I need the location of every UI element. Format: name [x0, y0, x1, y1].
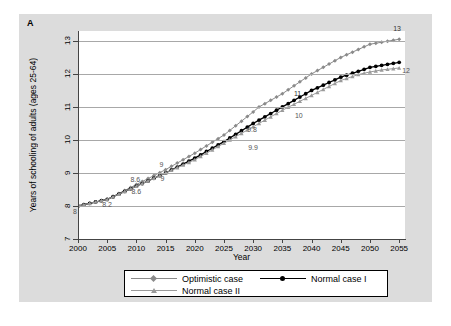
data-point-marker [362, 45, 366, 49]
x-tick-mark [166, 239, 167, 243]
legend-swatch [131, 274, 177, 284]
data-point-marker [292, 102, 296, 106]
data-point-marker [263, 118, 267, 122]
data-point-marker [175, 161, 179, 165]
y-axis [78, 31, 79, 239]
data-point-marker [257, 121, 261, 125]
x-tick-mark [282, 239, 283, 243]
data-point-marker [286, 102, 290, 106]
data-label: 9.8 [247, 126, 257, 133]
legend-item[interactable]: Normal case II [131, 284, 240, 297]
data-point-marker [350, 50, 354, 54]
data-point-marker [374, 64, 378, 68]
data-point-marker [310, 89, 314, 93]
y-tick-label: 10 [63, 134, 72, 146]
gridline [78, 107, 405, 108]
x-tick-mark [136, 239, 137, 243]
data-point-marker [321, 83, 325, 87]
data-point-marker [386, 62, 390, 66]
data-point-marker [391, 61, 395, 65]
data-point-marker [327, 84, 331, 88]
data-point-marker [321, 87, 325, 91]
data-label: 9 [161, 175, 165, 182]
x-tick-mark [370, 239, 371, 243]
data-label: 9.9 [248, 144, 258, 151]
y-tick-label: 8 [63, 200, 72, 212]
x-axis [78, 239, 406, 240]
data-point-marker [327, 81, 331, 85]
x-tick-mark [224, 239, 225, 243]
data-label: 8 [73, 208, 77, 215]
data-point-marker [333, 59, 337, 63]
data-point-marker [309, 93, 313, 97]
series-line [78, 39, 399, 206]
data-label: 8.6 [130, 176, 140, 183]
data-point-marker [263, 102, 267, 106]
data-point-marker [269, 115, 273, 119]
chart-legend: Optimistic caseNormal case INormal case … [124, 270, 388, 297]
legend-label: Optimistic case [182, 274, 243, 284]
figure-panel: A Years of schooling of adults (ages 25-… [19, 14, 432, 302]
y-tick-mark [73, 107, 78, 108]
gridline [78, 41, 405, 42]
legend-swatch [260, 274, 306, 284]
legend-marker-diamond [150, 275, 157, 282]
data-point-marker [315, 90, 319, 94]
data-point-marker [333, 78, 337, 82]
data-label: 12 [402, 67, 410, 74]
data-point-marker [274, 111, 278, 115]
data-point-marker [345, 53, 349, 57]
data-point-marker [187, 154, 191, 158]
legend-label: Normal case I [311, 274, 367, 284]
data-point-marker [304, 92, 308, 96]
plot-inner: 88.28.68.6999.89.911101312 [78, 31, 405, 239]
data-label: 9 [160, 161, 164, 168]
x-tick-mark [195, 239, 196, 243]
data-point-marker [339, 55, 343, 59]
gridline [78, 173, 405, 174]
x-axis-title: Year [78, 252, 405, 262]
y-axis-title: Years of schooling of adults (ages 25-64… [26, 31, 40, 239]
x-tick-mark [399, 239, 400, 243]
data-point-marker [356, 47, 360, 51]
gridline [78, 206, 405, 207]
y-tick-label: 12 [63, 68, 72, 80]
x-tick-mark [341, 239, 342, 243]
x-tick-mark [107, 239, 108, 243]
legend-item[interactable]: Normal case I [260, 272, 367, 285]
data-point-marker [321, 65, 325, 69]
gridline [78, 74, 405, 75]
x-tick-mark [253, 239, 254, 243]
legend-marker-triangle [151, 288, 157, 293]
data-point-marker [298, 99, 302, 103]
data-point-marker [269, 98, 273, 102]
y-tick-mark [73, 206, 78, 207]
data-point-marker [368, 65, 372, 69]
data-point-marker [368, 42, 372, 46]
y-tick-mark [73, 173, 78, 174]
series-line [78, 68, 399, 206]
series-lines [78, 31, 405, 239]
series-line [78, 62, 399, 206]
plot-area: 88.28.68.6999.89.911101312 [78, 31, 405, 239]
legend-marker-circle [280, 276, 285, 281]
data-point-marker [397, 60, 401, 64]
panel-label: A [27, 18, 34, 28]
data-point-marker [380, 63, 384, 67]
data-label: 8.6 [131, 188, 141, 195]
y-tick-label: 13 [63, 35, 72, 47]
data-point-marker [304, 96, 308, 100]
data-point-marker [333, 81, 337, 85]
data-point-marker [181, 158, 185, 162]
legend-swatch [131, 286, 177, 296]
y-tick-mark [73, 41, 78, 42]
data-label: 13 [393, 25, 401, 32]
x-tick-mark [78, 239, 79, 243]
data-point-marker [292, 98, 296, 102]
y-tick-label: 9 [63, 167, 72, 179]
data-label: 10 [295, 112, 303, 119]
data-point-marker [280, 108, 284, 112]
data-point-marker [316, 86, 320, 90]
data-point-marker [327, 62, 331, 66]
legend-label: Normal case II [182, 286, 240, 296]
